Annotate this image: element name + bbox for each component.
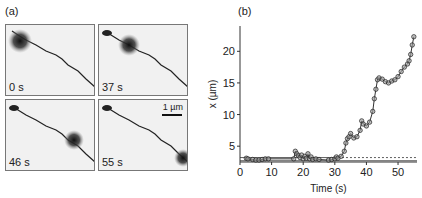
data-point (371, 109, 375, 113)
data-point (407, 59, 411, 63)
data-point (374, 87, 378, 91)
y-axis-title: x (µm) (207, 80, 218, 109)
trace-line (246, 37, 414, 160)
x-tick-label: 30 (329, 166, 341, 178)
y-tick-label: 20 (223, 45, 235, 57)
data-point (399, 69, 403, 73)
position-time-chart: 010203040505101520Time (s)x (µm) (0, 0, 422, 198)
x-tick-label: 50 (392, 166, 404, 178)
x-tick-label: 10 (265, 166, 277, 178)
data-point (412, 35, 416, 39)
data-point (396, 74, 400, 78)
chart-axes (237, 26, 417, 165)
y-tick-label: 15 (223, 77, 235, 89)
data-point (342, 149, 346, 153)
data-point (355, 134, 359, 138)
x-axis-title: Time (s) (310, 183, 346, 194)
data-point (364, 124, 368, 128)
x-tick-label: 0 (237, 166, 243, 178)
data-point (266, 157, 270, 161)
data-point (358, 128, 362, 132)
data-point (408, 52, 412, 56)
data-point (344, 141, 348, 145)
x-tick-label: 20 (297, 166, 309, 178)
x-tick-label: 40 (360, 166, 372, 178)
y-tick-label: 5 (229, 140, 235, 152)
data-point (292, 157, 296, 161)
tick-labels: 010203040505101520Time (s)x (µm) (207, 45, 404, 194)
data-points (244, 35, 416, 163)
data-point (339, 154, 343, 158)
data-point (372, 97, 376, 101)
data-point (410, 43, 414, 47)
data-point (348, 131, 352, 135)
data-point (367, 120, 371, 124)
data-point (317, 157, 321, 161)
y-tick-label: 10 (223, 109, 235, 121)
data-point (246, 157, 250, 161)
